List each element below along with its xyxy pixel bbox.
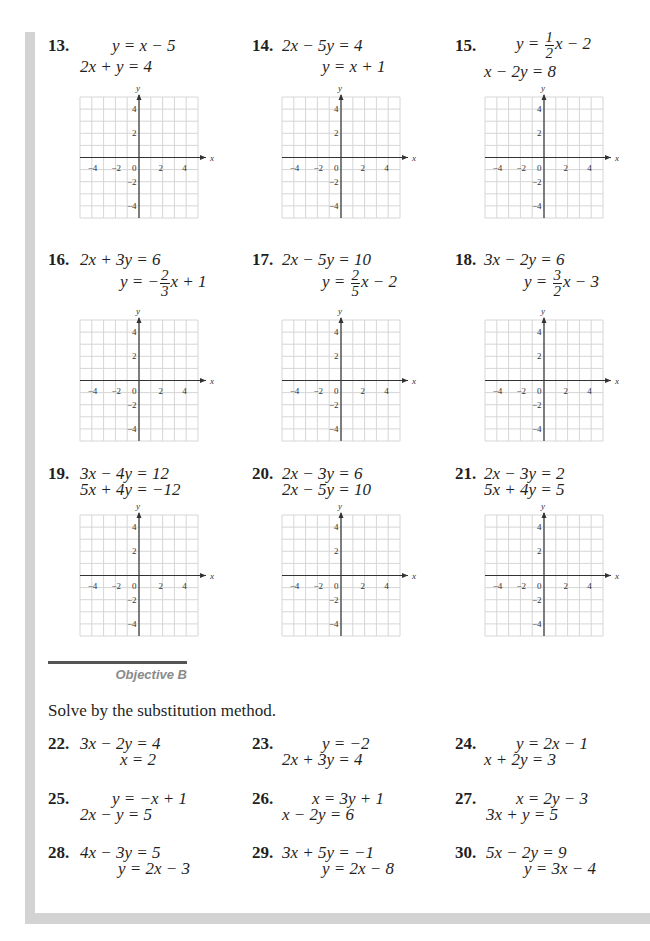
x-tick-label: 4 bbox=[587, 386, 592, 396]
x-tick-label: −2 bbox=[313, 581, 323, 591]
grid-svg: xy−4−202442−2−4 bbox=[485, 97, 603, 218]
x-tick-label: −2 bbox=[516, 581, 526, 591]
y-axis-label: y bbox=[540, 501, 545, 511]
x-tick-label: −2 bbox=[313, 163, 323, 173]
equation-line-1: y = 12x − 2 bbox=[516, 30, 591, 61]
x-tick-label: −4 bbox=[290, 581, 300, 591]
x-tick-label: −2 bbox=[516, 386, 526, 396]
problem-number: 26. bbox=[252, 789, 273, 809]
x-tick-label: −4 bbox=[88, 163, 98, 173]
x-tick-label: 4 bbox=[587, 163, 592, 173]
coordinate-grid[interactable]: xy−4−202442−2−4 bbox=[80, 97, 198, 218]
y-axis-label: y bbox=[135, 83, 140, 93]
coordinate-grid[interactable]: xy−4−202442−2−4 bbox=[282, 97, 400, 218]
y-axis bbox=[339, 317, 344, 441]
y-tick-label: 4 bbox=[537, 104, 542, 114]
problem-number: 19. bbox=[48, 464, 69, 484]
problem-number: 30. bbox=[455, 843, 476, 863]
y-tick-label: 2 bbox=[132, 546, 137, 556]
x-tick-label: 2 bbox=[159, 163, 164, 173]
x-axis-label: x bbox=[411, 376, 416, 386]
coordinate-grid[interactable]: xy−4−202442−2−4 bbox=[282, 515, 400, 636]
x-axis-label: x bbox=[209, 376, 214, 386]
equation-line-1: 3x − 2y = 6 bbox=[484, 250, 565, 270]
y-tick-label: −2 bbox=[329, 177, 339, 187]
coordinate-grid[interactable]: xy−4−202442−2−4 bbox=[485, 97, 603, 218]
problem-number: 17. bbox=[252, 250, 273, 270]
y-tick-label: −4 bbox=[532, 619, 542, 629]
x-axis-label: x bbox=[209, 153, 214, 163]
equation-line-2: 5x + 4y = −12 bbox=[80, 480, 181, 500]
y-tick-label: 2 bbox=[537, 128, 542, 138]
y-axis bbox=[542, 317, 547, 441]
coordinate-grid[interactable]: xy−4−202442−2−4 bbox=[80, 515, 198, 636]
x-tick-label: 2 bbox=[361, 163, 366, 173]
y-tick-label: −4 bbox=[127, 619, 137, 629]
x-axis-label: x bbox=[411, 571, 416, 581]
x-tick-label: −2 bbox=[313, 386, 323, 396]
x-axis bbox=[485, 573, 611, 578]
x-tick-label: −4 bbox=[88, 386, 98, 396]
y-axis bbox=[542, 94, 547, 218]
x-axis bbox=[282, 573, 408, 578]
grid-svg: xy−4−202442−2−4 bbox=[282, 97, 400, 218]
x-tick-label: 4 bbox=[182, 581, 187, 591]
y-axis-label: y bbox=[540, 83, 545, 93]
fraction: 23 bbox=[160, 268, 170, 299]
y-tick-label: −2 bbox=[329, 595, 339, 605]
equation-line-2: x − 2y = 8 bbox=[484, 62, 556, 82]
y-tick-label: −4 bbox=[532, 201, 542, 211]
y-tick-label: 2 bbox=[537, 546, 542, 556]
x-axis bbox=[282, 378, 408, 383]
fraction-denominator: 3 bbox=[160, 284, 170, 299]
x-tick-label: 0 bbox=[334, 386, 339, 396]
coordinate-grid[interactable]: xy−4−202442−2−4 bbox=[485, 320, 603, 441]
fraction: 32 bbox=[553, 268, 563, 299]
x-tick-label: 0 bbox=[537, 163, 542, 173]
y-tick-label: −4 bbox=[127, 424, 137, 434]
x-axis bbox=[485, 155, 611, 160]
coordinate-grid[interactable]: xy−4−202442−2−4 bbox=[80, 320, 198, 441]
problem-number: 16. bbox=[48, 250, 69, 270]
equation-prefix: y = bbox=[516, 34, 544, 53]
x-tick-label: 0 bbox=[132, 386, 137, 396]
fraction-denominator: 2 bbox=[545, 46, 555, 61]
equation-suffix: x − 2 bbox=[555, 34, 591, 53]
grid-svg: xy−4−202442−2−4 bbox=[80, 515, 198, 636]
grid-svg: xy−4−202442−2−4 bbox=[80, 97, 198, 218]
y-tick-label: −2 bbox=[127, 400, 137, 410]
y-axis-label: y bbox=[337, 306, 342, 316]
x-axis-label: x bbox=[209, 571, 214, 581]
grid-svg: xy−4−202442−2−4 bbox=[282, 320, 400, 441]
equation-line-2: x = 2 bbox=[120, 750, 156, 770]
y-tick-label: 4 bbox=[537, 327, 542, 337]
x-tick-label: 4 bbox=[384, 386, 389, 396]
x-tick-label: −4 bbox=[493, 163, 503, 173]
grid-svg: xy−4−202442−2−4 bbox=[282, 515, 400, 636]
y-tick-label: −4 bbox=[532, 424, 542, 434]
x-tick-label: 4 bbox=[384, 581, 389, 591]
x-axis bbox=[80, 378, 206, 383]
equation-line-2: x + 2y = 3 bbox=[484, 750, 556, 770]
coordinate-grid[interactable]: xy−4−202442−2−4 bbox=[282, 320, 400, 441]
y-axis bbox=[137, 94, 142, 218]
coordinate-grid[interactable]: xy−4−202442−2−4 bbox=[485, 515, 603, 636]
y-tick-label: −4 bbox=[329, 619, 339, 629]
y-tick-label: 4 bbox=[132, 104, 137, 114]
arrow-right-icon bbox=[605, 155, 611, 160]
y-axis-label: y bbox=[540, 306, 545, 316]
x-axis bbox=[80, 155, 206, 160]
grid-svg: xy−4−202442−2−4 bbox=[485, 515, 603, 636]
x-tick-label: 0 bbox=[537, 386, 542, 396]
y-tick-label: 2 bbox=[132, 128, 137, 138]
fraction-numerator: 2 bbox=[160, 268, 170, 284]
grid-svg: xy−4−202442−2−4 bbox=[80, 320, 198, 441]
problem-number: 22. bbox=[48, 734, 69, 754]
x-tick-label: 0 bbox=[537, 581, 542, 591]
problem-number: 15. bbox=[455, 36, 476, 56]
x-tick-label: 2 bbox=[564, 581, 569, 591]
x-tick-label: 0 bbox=[334, 163, 339, 173]
arrow-right-icon bbox=[200, 378, 206, 383]
arrow-right-icon bbox=[200, 573, 206, 578]
y-axis-label: y bbox=[337, 501, 342, 511]
